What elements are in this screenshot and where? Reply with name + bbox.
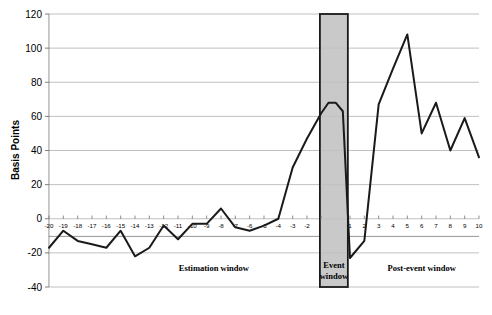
x-tick-label: -16 [102, 222, 112, 229]
x-tick-label: -19 [59, 222, 69, 229]
x-tick-label: -11 [174, 222, 183, 229]
x-tick-label: -15 [116, 222, 126, 229]
y-tick-label: 60 [31, 111, 43, 122]
x-tick-label: -17 [88, 222, 98, 229]
x-tick-label: 4 [391, 222, 395, 229]
annotation-event-window-line1: Event [323, 260, 344, 270]
x-tick-label: 6 [420, 222, 424, 229]
annotation-post-event-window: Post-event window [388, 263, 457, 273]
annotation-event-window-line2: window [320, 271, 349, 281]
x-tick-label: 7 [434, 222, 438, 229]
y-tick-label: -40 [28, 282, 43, 293]
x-tick-label: -20 [45, 222, 55, 229]
x-tick-label: -6 [247, 222, 253, 229]
y-tick-label: 0 [36, 213, 42, 224]
x-tick-label: -13 [145, 222, 155, 229]
x-tick-label: 8 [449, 222, 453, 229]
x-tick-label: 3 [377, 222, 381, 229]
y-tick-label: 40 [31, 145, 43, 156]
x-tick-label: -18 [73, 222, 83, 229]
x-tick-label: 9 [463, 222, 467, 229]
x-tick-label: -2 [304, 222, 310, 229]
x-tick-label: -14 [131, 222, 141, 229]
basis-points-line-chart: 120100806040200-20-40 -20-19-18-17-16-15… [0, 0, 492, 315]
x-tick-label: -8 [218, 222, 224, 229]
x-tick-label: 10 [476, 222, 483, 229]
x-tick-label: -4 [276, 222, 282, 229]
y-tick-label: -20 [28, 247, 43, 258]
y-tick-label: 120 [25, 9, 42, 20]
y-tick-label: 20 [31, 179, 43, 190]
y-axis-title: Basis Points [10, 120, 21, 180]
y-tick-label: 80 [31, 77, 43, 88]
x-tick-label: -3 [290, 222, 296, 229]
annotation-estimation-window: Estimation window [179, 263, 250, 273]
x-tick-label: 5 [406, 222, 410, 229]
y-tick-label: 100 [25, 43, 42, 54]
chart-container: 120100806040200-20-40 -20-19-18-17-16-15… [0, 0, 492, 315]
